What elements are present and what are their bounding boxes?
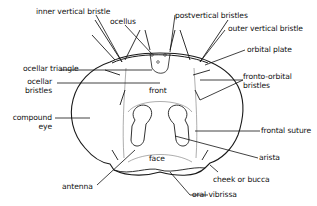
fly-head-diagram: inner vertical bristle ocellus postverti…	[0, 0, 317, 206]
label-ocellar-bristles: ocellar bristles	[16, 77, 52, 95]
label-outer-vertical-bristle: outer vertical bristle	[228, 24, 303, 33]
label-fronto-orbital-bristles: fronto-orbital bristles	[243, 72, 292, 90]
label-front: front	[149, 86, 167, 95]
frontal-suture-right	[194, 68, 197, 158]
label-frontal-suture: frontal suture	[261, 126, 311, 135]
label-postvertical-bristles: postvertical bristles	[175, 11, 248, 20]
label-ocellus: ocellus	[110, 17, 136, 26]
mouth-edge	[114, 168, 205, 172]
label-orbital-plate: orbital plate	[247, 45, 292, 54]
label-cheek-or-bucca: cheek or bucca	[213, 175, 270, 184]
ocellar-triangle-shape	[150, 54, 170, 73]
label-antenna: antenna	[62, 182, 93, 191]
label-inner-vertical-bristle: inner vertical bristle	[36, 7, 110, 16]
label-compound-eye: compound eye	[2, 113, 52, 131]
label-arista: arista	[259, 153, 280, 162]
label-oral-vibrissa: oral vibrissa	[192, 190, 237, 199]
antenna-left	[131, 105, 152, 146]
label-ocellar-triangle: ocellar triangle	[23, 64, 79, 73]
antenna-right	[168, 105, 189, 146]
ocellus-center	[157, 61, 160, 64]
label-face: face	[149, 154, 165, 163]
frontal-suture-left	[123, 68, 126, 158]
leader-lines	[55, 15, 260, 195]
